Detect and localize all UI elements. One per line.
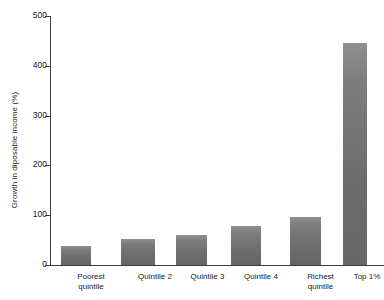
bar bbox=[121, 239, 155, 265]
bar bbox=[290, 217, 321, 265]
category-label: Quintile 4 bbox=[230, 272, 292, 282]
y-tick-label: 100 bbox=[33, 209, 47, 219]
y-axis-title: Growth in diposable income (%) bbox=[14, 0, 54, 300]
bar-chart-figure: Growth in diposable income (%) 010020030… bbox=[0, 0, 384, 300]
y-tick-300: 300 bbox=[50, 116, 55, 117]
bar bbox=[231, 226, 261, 265]
plot-area: 0100200300400500 Poorest quintileQuintil… bbox=[50, 16, 384, 265]
y-tick-label: 0 bbox=[42, 259, 47, 269]
y-tick-label: 200 bbox=[33, 159, 47, 169]
y-tick-500: 500 bbox=[50, 16, 55, 17]
y-tick-0: 0 bbox=[50, 265, 55, 266]
y-tick-label: 500 bbox=[33, 10, 47, 20]
category-label: Poorest quintile bbox=[60, 272, 122, 291]
y-tick-200: 200 bbox=[50, 165, 55, 166]
y-tick-label: 300 bbox=[33, 110, 47, 120]
bar bbox=[176, 235, 207, 265]
y-tick-400: 400 bbox=[50, 66, 55, 67]
x-axis-line bbox=[50, 265, 384, 266]
y-tick-label: 400 bbox=[33, 60, 47, 70]
y-tick-100: 100 bbox=[50, 215, 55, 216]
bar bbox=[343, 43, 367, 265]
y-axis-line bbox=[50, 16, 51, 265]
bar bbox=[61, 246, 91, 265]
category-label: Top 1% bbox=[336, 272, 384, 282]
